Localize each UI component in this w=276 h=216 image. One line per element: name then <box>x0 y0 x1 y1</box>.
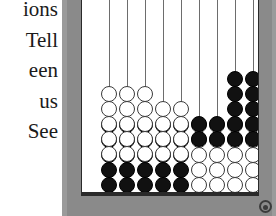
abacus-bead-white[interactable] <box>101 146 117 162</box>
abacus-bead-black[interactable] <box>191 116 207 132</box>
abacus-bead-white[interactable] <box>137 86 153 102</box>
abacus-bead-white[interactable] <box>137 116 153 132</box>
abacus-bead-white[interactable] <box>101 116 117 132</box>
abacus-bead-black[interactable] <box>227 86 243 102</box>
abacus-bead-white[interactable] <box>191 162 207 178</box>
abacus-bead-white[interactable] <box>227 147 243 163</box>
abacus-bead-black[interactable] <box>191 131 207 147</box>
abacus-frame <box>62 0 276 216</box>
abacus-bead-white[interactable] <box>119 101 135 117</box>
abacus-bead-black[interactable] <box>227 101 243 117</box>
abacus-bead-white[interactable] <box>101 131 117 147</box>
abacus-bead-black[interactable] <box>119 177 135 193</box>
abacus-bead-white[interactable] <box>245 177 259 193</box>
abacus-bead-black[interactable] <box>155 162 171 178</box>
abacus-rod[interactable] <box>155 0 172 195</box>
page-text-line: See <box>23 116 58 147</box>
abacus-bead-white[interactable] <box>119 116 135 132</box>
abacus-bead-black[interactable] <box>101 162 117 178</box>
abacus-bead-white[interactable] <box>245 147 259 163</box>
abacus-bead-white[interactable] <box>137 131 153 147</box>
abacus-bead-white[interactable] <box>137 146 153 162</box>
abacus-bead-white[interactable] <box>137 101 153 117</box>
abacus-bead-white[interactable] <box>173 101 189 117</box>
page-text-line: ions <box>23 0 58 25</box>
abacus-board <box>81 0 259 196</box>
frame-shading-right <box>272 0 276 216</box>
abacus-bead-white[interactable] <box>119 131 135 147</box>
abacus-bead-black[interactable] <box>209 116 225 132</box>
abacus-bead-white[interactable] <box>101 101 117 117</box>
abacus-bottom-rail <box>82 192 258 195</box>
abacus-bead-white[interactable] <box>119 146 135 162</box>
abacus-bead-black[interactable] <box>227 131 243 147</box>
abacus-bead-white[interactable] <box>227 177 243 193</box>
abacus-bead-black[interactable] <box>119 162 135 178</box>
abacus-bead-black[interactable] <box>245 131 259 147</box>
abacus-bead-black[interactable] <box>173 177 189 193</box>
abacus-bead-white[interactable] <box>101 86 117 102</box>
abacus-rod[interactable] <box>173 0 190 195</box>
abacus-bead-white[interactable] <box>155 146 171 162</box>
abacus-rod[interactable] <box>227 0 244 195</box>
abacus-bead-black[interactable] <box>155 177 171 193</box>
abacus-bead-black[interactable] <box>137 162 153 178</box>
abacus-bead-white[interactable] <box>245 162 259 178</box>
abacus-bead-white[interactable] <box>209 162 225 178</box>
abacus-rod[interactable] <box>101 0 118 195</box>
abacus-bead-black[interactable] <box>209 131 225 147</box>
abacus-rod[interactable] <box>209 0 226 195</box>
abacus-bead-white[interactable] <box>155 116 171 132</box>
abacus-bead-black[interactable] <box>227 71 243 87</box>
abacus-bead-black[interactable] <box>227 116 243 132</box>
figure-screenshot: ions Tell een us See <box>0 0 276 216</box>
abacus-bead-white[interactable] <box>209 177 225 193</box>
abacus-bead-white[interactable] <box>191 177 207 193</box>
abacus-bead-black[interactable] <box>245 71 259 87</box>
abacus-bead-black[interactable] <box>245 86 259 102</box>
abacus-bead-white[interactable] <box>155 131 171 147</box>
abacus-bead-black[interactable] <box>137 177 153 193</box>
abacus-rod[interactable] <box>191 0 208 195</box>
abacus-rod[interactable] <box>119 0 136 195</box>
page-text-column: ions Tell een us See <box>0 0 62 216</box>
abacus-bead-white[interactable] <box>209 147 225 163</box>
abacus-bead-black[interactable] <box>173 162 189 178</box>
abacus-rod[interactable] <box>245 0 260 195</box>
abacus-bead-black[interactable] <box>245 101 259 117</box>
page-text-line: Tell <box>23 25 58 56</box>
abacus-bead-white[interactable] <box>119 86 135 102</box>
abacus-bead-black[interactable] <box>245 116 259 132</box>
abacus-bead-black[interactable] <box>101 177 117 193</box>
abacus-bead-white[interactable] <box>191 147 207 163</box>
abacus-bead-white[interactable] <box>173 116 189 132</box>
abacus-bead-white[interactable] <box>173 146 189 162</box>
abacus-rod[interactable] <box>137 0 154 195</box>
abacus-bead-white[interactable] <box>173 131 189 147</box>
page-text-line: us <box>23 86 58 117</box>
page-text-line: een <box>23 55 58 86</box>
frame-shading-left <box>62 0 67 216</box>
page-text-lines: ions Tell een us See <box>23 0 58 147</box>
abacus-bead-white[interactable] <box>155 101 171 117</box>
page-corner-mark-icon <box>259 200 272 213</box>
abacus-bead-white[interactable] <box>227 162 243 178</box>
